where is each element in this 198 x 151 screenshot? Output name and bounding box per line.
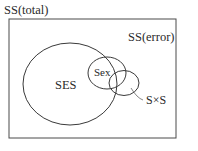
interaction-circle (109, 71, 139, 96)
venn-diagram: SS(total) SS(error) SES Sex S×S (0, 0, 198, 151)
total-label: SS(total) (4, 3, 48, 17)
error-label: SS(error) (128, 30, 175, 44)
sex-label: Sex (94, 66, 111, 78)
ses-label: SES (55, 78, 77, 92)
interaction-label: S×S (146, 93, 166, 107)
